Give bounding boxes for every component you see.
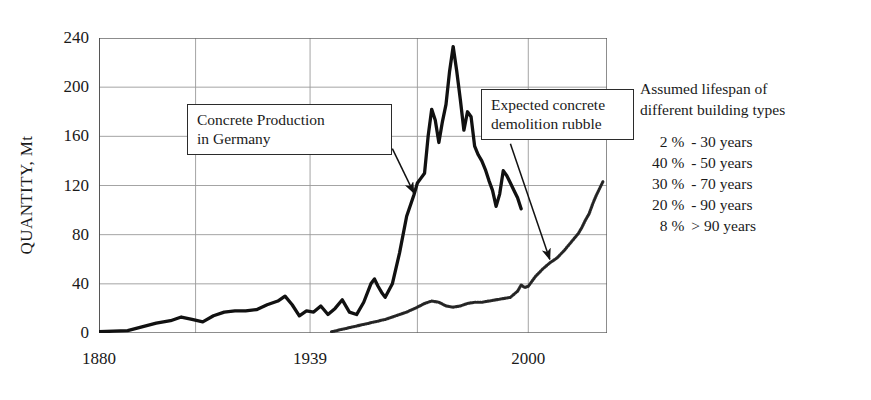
lifespan-legend-heading: Assumed lifespan of different building t… — [640, 78, 865, 120]
annotation-production-callout: Concrete Production in Germany — [187, 104, 392, 155]
annotation-rubble-line2: demolition rubble — [491, 114, 624, 133]
annotation-production-line1: Concrete Production — [197, 110, 382, 129]
lifespan-row: 8 %> 90 years — [652, 215, 756, 236]
chart-figure: QUANTITY, Mt 04080120160200240 188019392… — [0, 0, 871, 400]
lifespan-span: - 50 years — [691, 152, 756, 173]
lifespan-legend-heading-line2: different building types — [640, 99, 865, 120]
lifespan-legend-table: 2 %- 30 years40 %- 50 years30 %- 70 year… — [652, 131, 756, 236]
plot-area — [99, 38, 607, 333]
plot-svg — [99, 38, 607, 333]
y-tick-label-160: 160 — [37, 127, 89, 144]
lifespan-row: 40 %- 50 years — [652, 152, 756, 173]
lifespan-percent: 2 % — [652, 131, 691, 152]
lifespan-percent: 8 % — [652, 215, 691, 236]
lifespan-percent: 40 % — [652, 152, 691, 173]
lifespan-legend-heading-line1: Assumed lifespan of — [640, 78, 865, 99]
x-tick-label-1939: 1939 — [275, 350, 345, 367]
x-tick-label-2000: 2000 — [493, 350, 563, 367]
lifespan-row: 30 %- 70 years — [652, 173, 756, 194]
lifespan-legend-rows: 2 %- 30 years40 %- 50 years30 %- 70 year… — [652, 131, 756, 236]
series-line-1 — [332, 181, 604, 332]
lifespan-row: 2 %- 30 years — [652, 131, 756, 152]
lifespan-span: - 70 years — [691, 173, 756, 194]
lifespan-span: > 90 years — [691, 215, 756, 236]
lifespan-percent: 30 % — [652, 173, 691, 194]
y-tick-label-80: 80 — [37, 226, 89, 243]
y-tick-label-240: 240 — [37, 29, 89, 46]
annotation-production-line2: in Germany — [197, 129, 382, 148]
y-tick-label-200: 200 — [37, 78, 89, 95]
annotation-arrow-1 — [510, 144, 549, 260]
lifespan-row: 20 %- 90 years — [652, 194, 756, 215]
lifespan-percent: 20 % — [652, 194, 691, 215]
y-tick-label-120: 120 — [37, 177, 89, 194]
annotation-arrow-0 — [392, 149, 413, 193]
lifespan-span: - 30 years — [691, 131, 756, 152]
series-line-core-1 — [332, 181, 604, 332]
lifespan-span: - 90 years — [691, 194, 756, 215]
lifespan-legend: Assumed lifespan of different building t… — [640, 78, 865, 236]
annotation-rubble-callout: Expected concrete demolition rubble — [481, 89, 634, 140]
annotation-arrows — [392, 144, 549, 260]
y-tick-label-40: 40 — [37, 275, 89, 292]
annotation-rubble-line1: Expected concrete — [491, 95, 624, 114]
y-tick-label-0: 0 — [37, 324, 89, 341]
gridlines — [99, 38, 607, 333]
x-tick-label-1880: 1880 — [64, 350, 134, 367]
y-axis-title: QUANTITY, Mt — [17, 105, 37, 285]
